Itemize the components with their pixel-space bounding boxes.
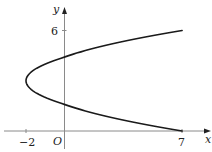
origin-label: O: [53, 135, 62, 148]
y-axis-arrow-icon: [62, 7, 67, 14]
parabola-curve: [26, 31, 182, 132]
x-tick-label-7: 7: [178, 136, 185, 149]
y-axis-label: y: [52, 3, 60, 16]
y-tick-label-6: 6: [51, 25, 58, 38]
parabola-figure: y 6 O −2 7 x: [0, 0, 212, 152]
y-axis: [62, 7, 67, 149]
x-axis-label: x: [205, 133, 212, 146]
x-tick-label-minus-2: −2: [19, 136, 35, 149]
